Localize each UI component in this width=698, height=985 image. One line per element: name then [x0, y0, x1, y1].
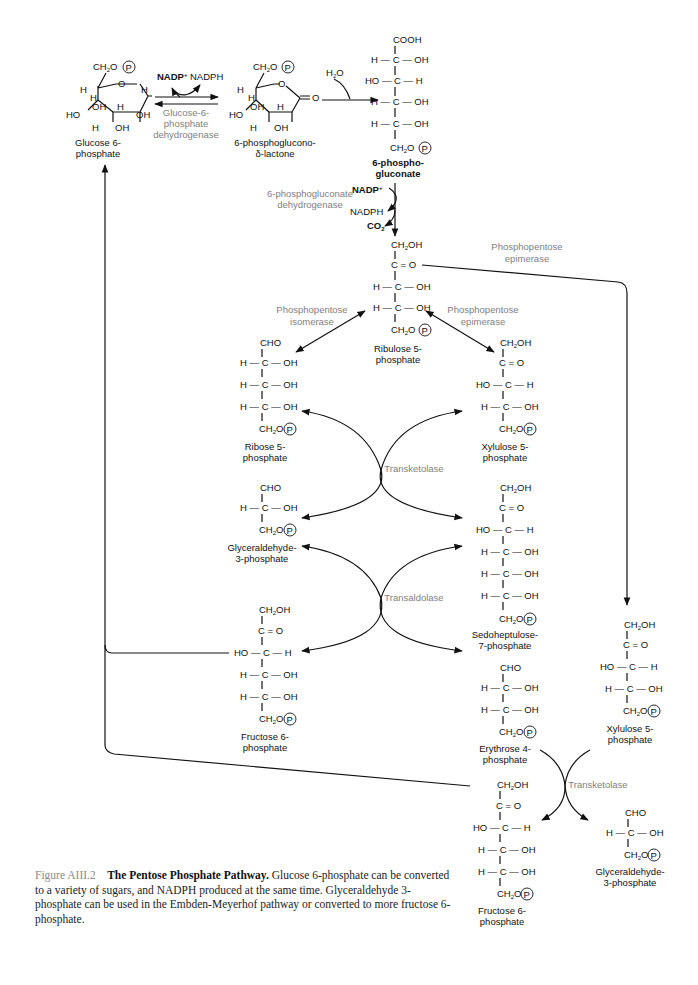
- svg-text:H — C — OH: H — C — OH: [371, 118, 429, 129]
- svg-text:NADP+: NADP+: [352, 184, 383, 195]
- svg-text:NADPH: NADPH: [190, 71, 223, 82]
- svg-text:Xylulose 5-: Xylulose 5-: [482, 441, 529, 452]
- svg-text:phosphate: phosphate: [243, 452, 287, 463]
- svg-text:OH: OH: [92, 101, 106, 112]
- svg-text:H — C — OH: H — C — OH: [240, 379, 298, 390]
- svg-text:phosphate: phosphate: [76, 148, 120, 159]
- svg-text:H: H: [277, 101, 284, 112]
- svg-text:phosphate: phosphate: [480, 916, 524, 927]
- svg-text:H — C — OH: H — C — OH: [478, 844, 536, 855]
- svg-text:phosphate: phosphate: [376, 354, 420, 365]
- pentose-phosphate-pathway-diagram: CH2O P O H H H HO OH H OH H OH Glucose 6…: [0, 0, 698, 985]
- svg-text:CHO: CHO: [260, 482, 281, 493]
- svg-text:H — C — OH: H — C — OH: [240, 357, 298, 368]
- svg-text:Ribulose 5-: Ribulose 5-: [374, 343, 422, 354]
- svg-text:6-phosphogluconate: 6-phosphogluconate: [267, 188, 353, 199]
- svg-text:dehydrogenase: dehydrogenase: [277, 199, 343, 210]
- svg-text:H — C — OH: H — C — OH: [481, 682, 539, 693]
- glucose-6-phosphate-structure: CH2O P O H H H HO OH H OH H OH: [66, 61, 152, 133]
- xylulose-5-phosphate-structure-a: CH2OH C = O HO — C — H H — C — OH CH2O P: [476, 337, 539, 435]
- svg-text:H2O: H2O: [326, 67, 344, 79]
- figure-title: The Pentose Phosphate Pathway.: [107, 869, 269, 881]
- svg-text:Phosphopentose: Phosphopentose: [447, 304, 518, 315]
- svg-text:COOH: COOH: [393, 34, 422, 45]
- svg-text:H: H: [92, 122, 99, 133]
- figure-number: Figure AIII.2: [35, 869, 96, 881]
- svg-text:6-phospho-: 6-phospho-: [372, 157, 424, 168]
- transketolase-reaction-b: Transketolase: [540, 750, 628, 820]
- svg-text:Transketolase: Transketolase: [384, 463, 443, 474]
- svg-text:Glucose-6-: Glucose-6-: [163, 107, 209, 118]
- svg-text:CH2OH: CH2OH: [500, 337, 531, 349]
- svg-text:P: P: [126, 62, 132, 73]
- svg-text:Phosphopentose: Phosphopentose: [491, 241, 562, 252]
- svg-text:isomerase: isomerase: [290, 316, 334, 327]
- 6-phosphogluconate-structure: COOH H — C — OH HO — C — H H — C — OH H …: [365, 34, 431, 154]
- svg-text:H — C — OH: H — C — OH: [481, 568, 539, 579]
- svg-text:H — C — OH: H — C — OH: [373, 281, 431, 292]
- svg-text:HO — C — H: HO — C — H: [476, 379, 534, 390]
- svg-text:HO — C — H: HO — C — H: [600, 661, 658, 672]
- transketolase-reaction-a: Transketolase: [302, 411, 462, 518]
- svg-text:H — C — OH: H — C — OH: [371, 96, 429, 107]
- svg-text:CH2OH: CH2OH: [259, 604, 290, 616]
- svg-text:HO — C — H: HO — C — H: [473, 822, 531, 833]
- svg-text:C = O: C = O: [391, 259, 416, 270]
- svg-text:phosphate: phosphate: [243, 742, 287, 753]
- svg-text:HO: HO: [66, 109, 80, 120]
- svg-text:P: P: [287, 424, 293, 435]
- svg-text:HO: HO: [229, 109, 243, 120]
- svg-text:CHO: CHO: [625, 807, 646, 818]
- svg-text:CH2O: CH2O: [499, 726, 523, 738]
- svg-text:P: P: [527, 614, 533, 625]
- svg-text:H — C — OH: H — C — OH: [481, 546, 539, 557]
- svg-text:CH2O: CH2O: [259, 713, 283, 725]
- svg-text:CO2: CO2: [367, 220, 385, 232]
- erythrose-4-phosphate-structure: CHO H — C — OH H — C — OH CH2O P: [481, 662, 539, 738]
- svg-text:P: P: [527, 424, 533, 435]
- svg-text:C = O: C = O: [623, 639, 648, 650]
- svg-text:H — C — OH: H — C — OH: [606, 827, 664, 838]
- svg-text:phosphate: phosphate: [164, 118, 208, 129]
- svg-text:dehydrogenase: dehydrogenase: [153, 129, 219, 140]
- svg-text:H: H: [80, 84, 87, 95]
- svg-text:OH: OH: [115, 122, 129, 133]
- svg-text:NADPH: NADPH: [350, 206, 383, 217]
- svg-text:H: H: [141, 84, 148, 95]
- svg-text:6-phosphoglucono-: 6-phosphoglucono-: [234, 137, 315, 148]
- 6pgdh-reaction: NADP+ NADPH CO2 6-phosphogluconate dehyd…: [267, 183, 396, 236]
- svg-text:CH2O: CH2O: [259, 423, 283, 435]
- svg-text:CH2O: CH2O: [624, 849, 648, 861]
- transaldolase-reaction: Transaldolase: [302, 546, 462, 651]
- svg-text:Glyceraldehyde-: Glyceraldehyde-: [227, 542, 296, 553]
- figure-caption: Figure AIII.2 The Pentose Phosphate Path…: [35, 868, 455, 926]
- svg-text:P: P: [422, 325, 428, 336]
- svg-text:HO — C — H: HO — C — H: [476, 524, 534, 535]
- svg-text:P: P: [422, 143, 428, 154]
- svg-text:OH: OH: [136, 109, 150, 120]
- svg-text:P: P: [287, 714, 293, 725]
- svg-text:Glyceraldehyde-: Glyceraldehyde-: [595, 866, 664, 877]
- svg-text:C = O: C = O: [496, 800, 521, 811]
- svg-text:CH2O: CH2O: [497, 888, 521, 900]
- xylulose-5-phosphate-structure-b: CH2OH C = O HO — C — H H — C — OH CH2O P: [600, 619, 663, 717]
- sedoheptulose-7-phosphate-structure: CH2OH C = O HO — C — H H — C — OH H — C …: [476, 482, 539, 625]
- svg-text:P: P: [287, 525, 293, 536]
- svg-text:CH2O: CH2O: [253, 61, 277, 73]
- svg-text:O: O: [312, 92, 319, 103]
- fructose-6-phosphate-structure-a: CH2OH C = O HO — C — H H — C — OH H — C …: [234, 604, 298, 725]
- fructose-6-phosphate-structure-b: CH2OH C = O HO — C — H H — C — OH H — C …: [473, 779, 536, 900]
- svg-text:C = O: C = O: [258, 625, 283, 636]
- glucose-6-phosphate-label: Glucose 6-: [75, 137, 121, 148]
- svg-text:CH2OH: CH2OH: [624, 619, 655, 631]
- svg-text:Transaldolase: Transaldolase: [384, 592, 443, 603]
- svg-text:CH2O: CH2O: [499, 423, 523, 435]
- g6pdh-reaction: NADP+ NADPH Glucose-6- phosphate dehydro…: [153, 71, 223, 140]
- svg-text:O: O: [278, 78, 285, 89]
- svg-text:3-phosphate: 3-phosphate: [236, 553, 289, 564]
- svg-text:gluconate: gluconate: [376, 168, 421, 179]
- svg-text:Transketolase: Transketolase: [568, 779, 627, 790]
- svg-text:OH: OH: [250, 101, 264, 112]
- ribose-5-phosphate-structure: CHO H — C — OH H — C — OH H — C — OH CH2…: [240, 337, 298, 435]
- svg-text:phosphate: phosphate: [483, 452, 527, 463]
